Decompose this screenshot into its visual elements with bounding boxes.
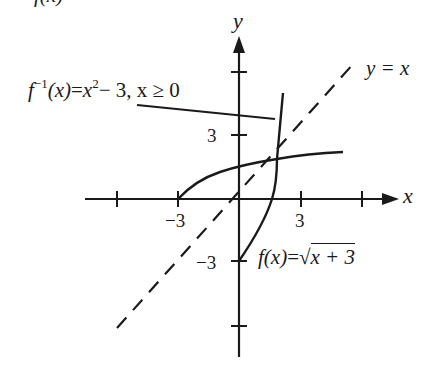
f-inverse-sup: −1	[34, 76, 48, 91]
top-cut-text: f(x)	[34, 0, 63, 6]
f-arg: (x)	[264, 245, 287, 269]
curve-f-sqrt	[178, 152, 343, 199]
x-axis-arrow-icon	[382, 193, 399, 205]
x-axis-label: x	[403, 185, 413, 207]
identity-line-dashed	[117, 63, 354, 328]
f-inverse-arg: (x)	[48, 78, 71, 102]
sqrt-symbol: √	[299, 245, 311, 269]
f-inverse-rhs-sup: 2	[92, 76, 99, 91]
inverse-function-diagram: f(x) y x −3 3 3 −3 y = x f−1(x)=x2− 3, x…	[0, 0, 428, 366]
y-axis-arrow-icon	[233, 36, 245, 53]
f-label: f(x)=√x + 3	[258, 247, 355, 268]
y-axis-label: y	[233, 10, 243, 32]
label-pointer-line	[137, 105, 275, 119]
f-inverse-rhs-base: x	[83, 78, 92, 102]
f-inverse-rhs-tail: − 3, x ≥ 0	[99, 78, 180, 102]
y-tick-label-neg3: −3	[196, 253, 216, 272]
x-tick-label-3: 3	[295, 211, 305, 230]
f-inverse-eq: =	[71, 78, 83, 102]
y-tick-label-3: 3	[207, 126, 217, 145]
identity-line-label: y = x	[366, 58, 409, 79]
x-tick-label-neg3: −3	[165, 211, 185, 230]
f-rhs: x + 3	[311, 243, 356, 269]
f-inverse-label: f−1(x)=x2− 3, x ≥ 0	[28, 80, 180, 101]
f-eq: =	[287, 245, 299, 269]
identity-label-text: y = x	[366, 56, 409, 80]
graph-canvas	[0, 0, 428, 366]
f-inverse-fn: f	[28, 78, 34, 102]
